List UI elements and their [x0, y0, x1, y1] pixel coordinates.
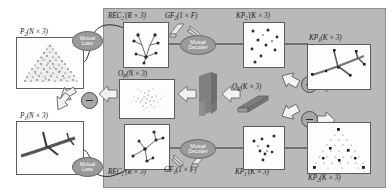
kp-pred-bottom-box — [243, 126, 285, 170]
mutual-loss-top-node[interactable]: Mutual Loss — [72, 31, 103, 51]
kp-gt-top-caption: KP1(K × 3) — [309, 34, 341, 43]
offset-point-box — [119, 79, 175, 119]
offset-keypoint-caption: OK(K × 3) — [232, 83, 261, 92]
rec-top-box — [123, 22, 169, 68]
rec-top-caption: REC2′(R × 3) — [108, 12, 146, 21]
shared-encoder-icon — [197, 72, 221, 116]
offset-keypoint-icon — [236, 94, 270, 114]
minus-icon — [86, 100, 93, 101]
mutual-decoder-top-line2: Decoder — [188, 45, 207, 50]
rec-bottom-box — [124, 124, 170, 170]
mutual-loss-bottom-node[interactable]: Mutual Loss — [72, 157, 103, 177]
kp-pred-top-box — [243, 22, 285, 68]
minus-icon — [306, 119, 313, 120]
mutual-decoder-top-node[interactable]: Mutual Decoder — [180, 35, 216, 55]
mutual-loss-bottom-line2: Loss — [82, 167, 93, 172]
gf-top-caption: GF2(1 × F) — [165, 12, 197, 21]
subtract-input-operator[interactable] — [81, 92, 98, 109]
mutual-loss-top-line2: Loss — [82, 41, 93, 46]
architecture-diagram: P2(N × 3) P1(N × 3) — [0, 0, 392, 194]
mutual-decoder-bottom-line2: Decoder — [188, 149, 207, 154]
kp-gt-bottom-box — [307, 122, 371, 174]
kp-gt-top-box — [307, 44, 371, 90]
mutual-decoder-bottom-node[interactable]: Mutual Decoder — [180, 139, 216, 159]
kp-gt-bottom-caption: KP2(K × 3) — [308, 174, 340, 183]
kp-pred-top-caption: KP2′(K × 3) — [236, 12, 270, 21]
